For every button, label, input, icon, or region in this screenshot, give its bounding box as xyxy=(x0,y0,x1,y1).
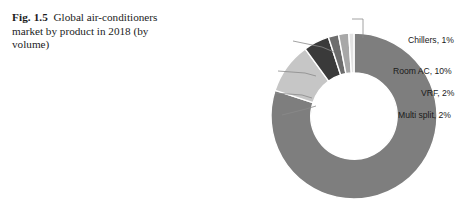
slice-label-chillers: Chillers, 1% xyxy=(408,35,454,46)
figure-page: Fig. 1.5 Global air-conditioners market … xyxy=(0,0,469,208)
donut-chart-svg xyxy=(230,0,469,208)
slice-label-vrf: VRF, 2% xyxy=(421,88,454,99)
figure-caption: Fig. 1.5 Global air-conditioners market … xyxy=(12,11,177,52)
slice-label-multi-split: Multi split, 2% xyxy=(398,110,451,121)
donut-chart: Airside, 5% Chillers, 1% Room AC, 10% VR… xyxy=(230,0,469,208)
slice-label-room-ac: Room AC, 10% xyxy=(393,66,452,77)
figure-number: Fig. 1.5 xyxy=(12,11,48,23)
